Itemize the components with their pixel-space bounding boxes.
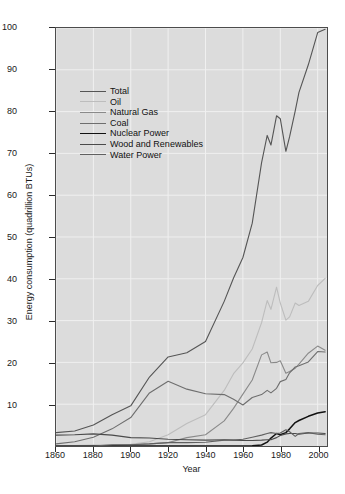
x-tick-mark xyxy=(281,447,282,452)
legend-label: Nuclear Power xyxy=(110,128,169,139)
y-tick-mark xyxy=(49,279,55,280)
legend-label: Total xyxy=(110,86,129,97)
x-tick-mark xyxy=(130,447,131,452)
legend-label: Water Power xyxy=(110,150,162,161)
y-tick-mark xyxy=(49,27,55,28)
y-tick-mark xyxy=(49,237,55,238)
legend-item-total: Total xyxy=(80,86,203,97)
legend-item-oil: Oil xyxy=(80,97,203,108)
x-tick-mark xyxy=(319,447,320,452)
y-tick-mark xyxy=(49,405,55,406)
y-tick-label: 90 xyxy=(7,64,17,74)
legend-swatch-icon xyxy=(80,112,106,113)
y-tick-mark xyxy=(49,111,55,112)
x-axis-label: Year xyxy=(55,464,328,474)
energy-consumption-chart: Energy consumption (quadrillion BTUs) 10… xyxy=(0,0,345,494)
legend-swatch-icon xyxy=(80,101,106,102)
legend-item-water-power: Water Power xyxy=(80,150,203,161)
y-tick-label: 70 xyxy=(7,148,17,158)
y-tick-label: 10 xyxy=(7,400,17,410)
y-tick-label: 40 xyxy=(7,274,17,284)
x-tick-mark xyxy=(243,447,244,452)
y-tick-label: 50 xyxy=(7,232,17,242)
y-tick-mark xyxy=(49,153,55,154)
series-line-water-power xyxy=(56,430,325,446)
y-tick-mark xyxy=(49,363,55,364)
legend-label: Natural Gas xyxy=(110,107,158,118)
legend-swatch-icon xyxy=(80,91,106,92)
y-tick-label: 30 xyxy=(7,316,17,326)
y-tick-mark xyxy=(49,195,55,196)
legend-label: Oil xyxy=(110,97,121,108)
y-tick-label: 100 xyxy=(2,22,17,32)
y-tick-mark xyxy=(49,321,55,322)
x-tick-mark xyxy=(206,447,207,452)
legend-label: Wood and Renewables xyxy=(110,139,203,150)
legend-swatch-icon xyxy=(80,133,106,134)
legend-item-nuclear-power: Nuclear Power xyxy=(80,128,203,139)
legend-item-natural-gas: Natural Gas xyxy=(80,107,203,118)
x-tick-mark xyxy=(55,447,56,452)
legend-item-wood-and-renewables: Wood and Renewables xyxy=(80,139,203,150)
legend-swatch-icon xyxy=(80,154,106,155)
chart-legend: TotalOilNatural GasCoalNuclear PowerWood… xyxy=(80,86,203,160)
series-line-natural-gas xyxy=(56,346,325,446)
x-tick-mark xyxy=(93,447,94,452)
x-tick-mark xyxy=(168,447,169,452)
y-tick-mark xyxy=(49,69,55,70)
y-tick-label: 60 xyxy=(7,190,17,200)
y-axis-label: Energy consumption (quadrillion BTUs) xyxy=(24,117,34,367)
y-tick-label: 80 xyxy=(7,106,17,116)
legend-swatch-icon xyxy=(80,144,106,145)
legend-swatch-icon xyxy=(80,123,106,124)
chart-title-remnant xyxy=(0,0,345,10)
y-tick-label: 20 xyxy=(7,358,17,368)
legend-label: Coal xyxy=(110,118,129,129)
legend-item-coal: Coal xyxy=(80,118,203,129)
series-line-nuclear-power xyxy=(56,412,325,446)
